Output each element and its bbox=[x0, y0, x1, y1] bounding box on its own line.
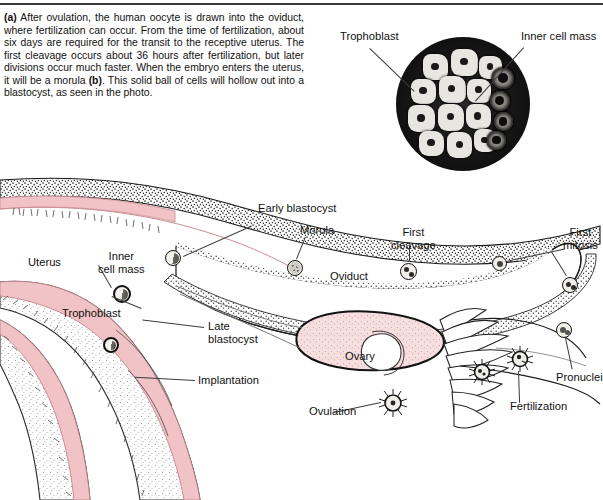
diagram-label-uterus: Uterus bbox=[28, 256, 61, 269]
diagram-label-inner-cell-mass: Inner cell mass bbox=[98, 250, 145, 276]
stage-ovulated-oocyte bbox=[378, 388, 408, 418]
photo-label-inner-cell-mass: Inner cell mass bbox=[521, 30, 596, 43]
stage-first-mitosis-b bbox=[562, 277, 578, 293]
stage-morula bbox=[287, 260, 303, 276]
figure-caption: (a) After ovulation, the human oocyte is… bbox=[4, 12, 304, 100]
photo-label-trophoblast: Trophoblast bbox=[340, 30, 399, 43]
diagram-label-first-mitosis: First mitosis bbox=[563, 226, 598, 252]
diagram-label-ovary: Ovary bbox=[345, 350, 375, 363]
stage-first-mitosis-a bbox=[492, 256, 507, 271]
diagram-label-trophoblast: Trophoblast bbox=[62, 307, 121, 320]
stage-early-blastocyst bbox=[165, 250, 181, 266]
diagram-label-oviduct: Oviduct bbox=[330, 270, 368, 283]
reproductive-tract-diagram bbox=[0, 170, 603, 500]
stage-first-cleavage bbox=[400, 263, 417, 280]
diagram-label-pronuclei: Pronuclei bbox=[556, 371, 603, 384]
photo-disc bbox=[396, 37, 530, 171]
diagram-label-first-cleavage: First cleavage bbox=[391, 226, 436, 252]
caption-label-b: (b) bbox=[89, 75, 102, 86]
top-rule bbox=[0, 3, 603, 5]
diagram-label-implantation: Implantation bbox=[198, 374, 259, 387]
diagram-label-early-blastocyst: Early blastocyst bbox=[258, 202, 336, 215]
blastocyst-photo bbox=[396, 37, 530, 171]
stage-implanting-blastocyst bbox=[103, 337, 119, 353]
diagram-label-ovulation: Ovulation bbox=[309, 405, 356, 418]
caption-label-a: (a) bbox=[4, 12, 17, 23]
diagram-label-morula: Morula bbox=[300, 224, 334, 237]
stage-pronuclei bbox=[556, 322, 572, 338]
diagram-label-fertilization: Fertilization bbox=[510, 400, 567, 413]
diagram-label-late-blastocyst: Late blastocyst bbox=[208, 320, 258, 346]
stage-fertilization bbox=[506, 345, 534, 373]
stage-oocyte-in-fimbriae bbox=[468, 358, 496, 386]
figure-page: (a) After ovulation, the human oocyte is… bbox=[0, 0, 603, 500]
